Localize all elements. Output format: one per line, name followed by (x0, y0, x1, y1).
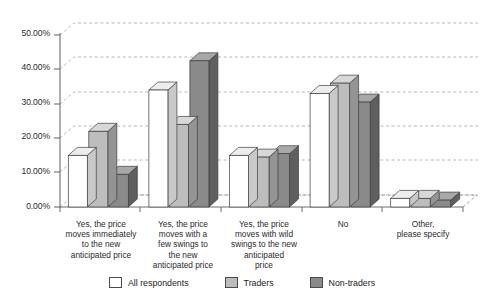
x-axis-category-label: Yes, the price moves with a few swings t… (140, 219, 226, 270)
y-axis (54, 33, 60, 208)
bar (310, 85, 338, 207)
legend-item-all-respondents: All respondents (109, 277, 189, 288)
legend-swatch-icon (109, 277, 122, 288)
bar (230, 147, 258, 207)
x-axis-category-label: Yes, the price moves immediately to the … (55, 219, 147, 260)
bar (149, 82, 177, 207)
x-axis-category-label: Other, please specify (381, 219, 465, 239)
bar-series-group (68, 53, 459, 207)
legend-item-non-traders: Non-traders (310, 277, 375, 288)
x-axis-category-label: Yes, the price moves with wild swings to… (218, 219, 310, 270)
legend-label: Traders (244, 278, 274, 288)
legend-swatch-icon (310, 277, 323, 288)
legend-item-traders: Traders (225, 277, 274, 288)
legend-label: Non-traders (329, 278, 375, 288)
bar-chart: 50.00% 40.00% 30.00% 20.00% 10.00% 0.00% (0, 0, 484, 303)
bar (68, 147, 96, 207)
x-axis-category-label: No (306, 219, 380, 229)
legend-label: All respondents (128, 278, 189, 288)
legend: All respondents Traders Non-traders (0, 277, 484, 288)
legend-swatch-icon (225, 277, 238, 288)
